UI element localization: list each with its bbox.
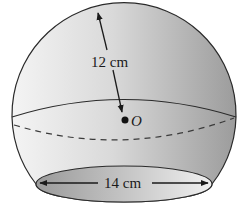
center-point	[122, 117, 129, 124]
center-label: O	[131, 113, 142, 129]
diameter-label: 14 cm	[104, 175, 141, 191]
truncated-sphere-diagram: 12 cm O 14 cm	[0, 0, 252, 213]
radius-label: 12 cm	[91, 54, 128, 70]
